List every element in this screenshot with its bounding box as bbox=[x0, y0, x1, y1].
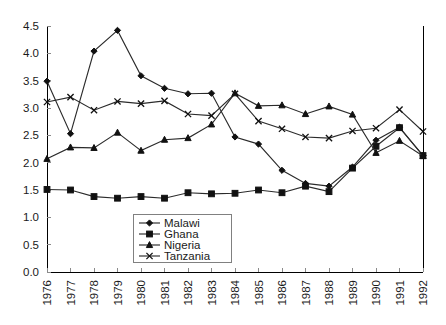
legend-label: Tanzania bbox=[164, 250, 211, 262]
x-axis-tick-label: 1979 bbox=[112, 280, 124, 306]
y-axis-tick-label: 0.0 bbox=[23, 266, 39, 278]
y-axis-tick-label: 4.0 bbox=[23, 47, 39, 59]
marker-square bbox=[185, 190, 191, 196]
y-axis-ticklabels: 0.00.51.01.52.02.53.03.54.04.5 bbox=[23, 20, 39, 278]
marker-square bbox=[138, 194, 144, 200]
marker-square bbox=[303, 183, 309, 189]
marker-triangle bbox=[114, 129, 120, 135]
series-line-malawi bbox=[47, 30, 423, 186]
marker-square bbox=[44, 187, 50, 193]
marker-triangle bbox=[396, 137, 402, 143]
y-axis-tick-label: 3.0 bbox=[23, 102, 39, 114]
marker-square bbox=[373, 143, 379, 149]
marker-square bbox=[279, 190, 285, 196]
marker-diamond bbox=[67, 131, 73, 137]
x-axis-tick-label: 1977 bbox=[65, 280, 77, 306]
series-line-tanzania bbox=[47, 94, 423, 138]
x-axis-tick-label: 1992 bbox=[417, 280, 429, 306]
marker-triangle bbox=[44, 155, 50, 161]
marker-diamond bbox=[208, 90, 214, 96]
x-axis-ticklabels: 1976197719781979198019811982198319841985… bbox=[41, 279, 429, 305]
y-axis-tick-label: 1.0 bbox=[23, 211, 39, 223]
x-axis-tick-label: 1986 bbox=[276, 280, 288, 306]
x-axis-tick-label: 1990 bbox=[370, 280, 382, 306]
x-axis-tick-label: 1989 bbox=[347, 280, 359, 306]
series-group bbox=[44, 27, 426, 201]
y-axis-tick-label: 3.5 bbox=[23, 75, 39, 87]
marker-square bbox=[326, 189, 332, 195]
marker-x bbox=[279, 126, 285, 132]
y-axis-tick-label: 1.5 bbox=[23, 184, 39, 196]
marker-x bbox=[91, 107, 97, 113]
x-axis-tick-label: 1991 bbox=[394, 280, 406, 306]
marker-square bbox=[350, 165, 356, 171]
y-axis-tick-label: 2.0 bbox=[23, 157, 39, 169]
marker-square bbox=[68, 187, 74, 193]
marker-diamond bbox=[44, 78, 50, 84]
x-axis-tick-label: 1982 bbox=[182, 280, 194, 306]
y-axis-tick-label: 2.5 bbox=[23, 129, 39, 141]
marker-square bbox=[91, 194, 97, 200]
marker-square bbox=[162, 195, 168, 201]
marker-diamond bbox=[138, 73, 144, 79]
marker-x bbox=[255, 118, 261, 124]
marker-square bbox=[232, 190, 238, 196]
x-axis-tick-label: 1987 bbox=[300, 280, 312, 306]
marker-square bbox=[397, 125, 403, 131]
marker-square bbox=[115, 195, 121, 201]
y-axis-tick-label: 0.5 bbox=[23, 239, 39, 251]
x-axis-tick-label: 1978 bbox=[88, 280, 100, 306]
marker-square bbox=[209, 191, 215, 197]
marker-triangle bbox=[185, 135, 191, 141]
axis-lines bbox=[47, 26, 423, 272]
marker-diamond bbox=[161, 85, 167, 91]
x-axis-tick-label: 1985 bbox=[253, 280, 265, 306]
x-axis-tick-label: 1983 bbox=[206, 280, 218, 306]
x-axis-tick-label: 1988 bbox=[323, 280, 335, 306]
x-axis-tick-label: 1976 bbox=[41, 280, 53, 306]
marker-x bbox=[396, 107, 402, 113]
marker-square bbox=[256, 187, 262, 193]
marker-triangle bbox=[326, 103, 332, 109]
line-chart: 0.00.51.01.52.02.53.03.54.04.5 197619771… bbox=[0, 0, 446, 325]
tick-marks bbox=[47, 26, 423, 272]
x-axis-tick-label: 1980 bbox=[135, 280, 147, 306]
series-line-nigeria bbox=[47, 93, 423, 159]
x-axis-tick-label: 1981 bbox=[159, 280, 171, 306]
series-malawi bbox=[44, 27, 426, 189]
series-nigeria bbox=[44, 90, 426, 162]
chart-legend: MalawiGhanaNigeriaTanzania bbox=[133, 214, 231, 262]
x-axis-tick-label: 1984 bbox=[229, 279, 241, 305]
y-axis-tick-label: 4.5 bbox=[23, 20, 39, 32]
marker-diamond bbox=[232, 134, 238, 140]
marker-square bbox=[147, 231, 153, 237]
chart-canvas: 0.00.51.01.52.02.53.03.54.04.5 197619771… bbox=[0, 0, 446, 325]
marker-diamond bbox=[185, 91, 191, 97]
